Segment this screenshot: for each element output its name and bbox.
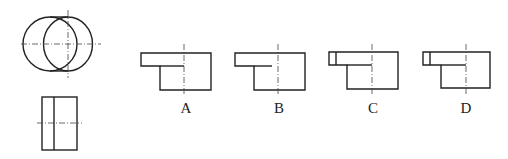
option-c-view: [329, 44, 398, 96]
front-view: [37, 97, 82, 150]
technical-drawing: [0, 0, 508, 159]
option-b-label: B: [274, 100, 284, 117]
option-c-label: C: [368, 100, 378, 117]
option-a-view: [141, 44, 211, 96]
option-a-label: A: [181, 100, 192, 117]
option-d-view: [423, 44, 490, 96]
option-d-label: D: [461, 100, 472, 117]
option-b-view: [235, 44, 305, 96]
top-view: [21, 10, 101, 78]
